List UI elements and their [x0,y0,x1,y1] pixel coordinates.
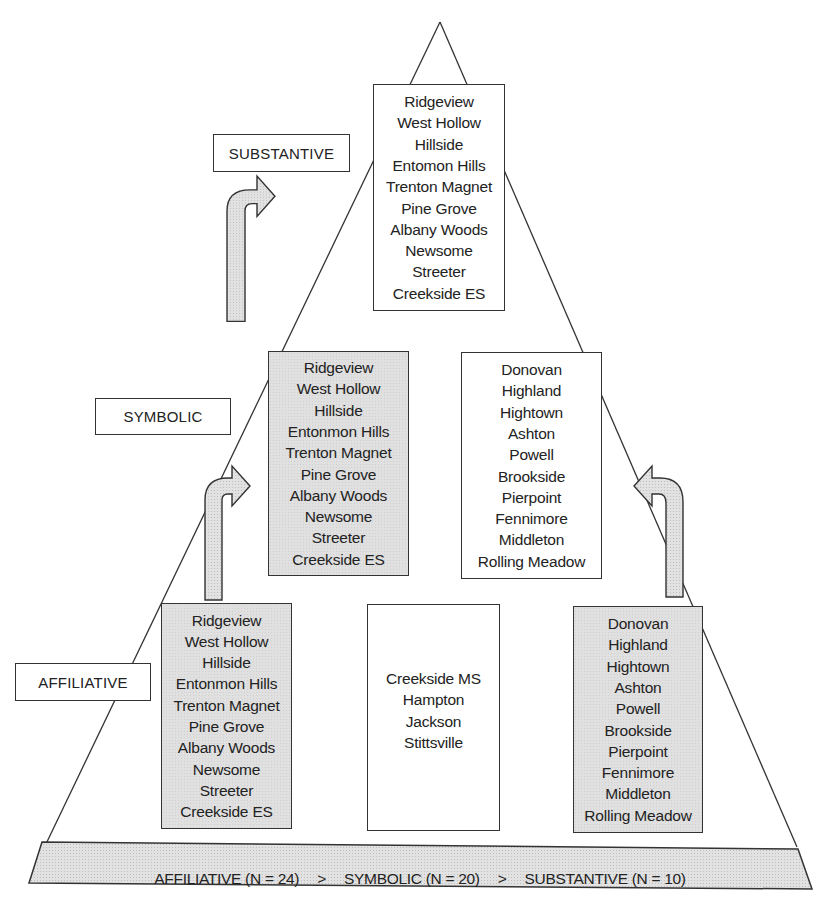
school-name: Hightown [500,402,563,423]
school-name: Hillside [415,134,463,155]
school-name: Donovan [608,613,669,634]
affiliative-left-schools-box: Ridgeview West Hollow Hillside Entonmon … [161,603,292,829]
school-name: Pine Grove [189,716,265,737]
school-name: Creekside ES [292,549,384,570]
school-name: Ashton [614,677,661,698]
school-name: Rolling Meadow [478,551,585,572]
school-name: Stittsville [404,732,463,753]
school-name: Middleton [499,529,564,550]
school-name: Brookside [498,466,565,487]
school-name: West Hollow [185,631,269,652]
school-name: Pine Grove [301,464,377,485]
school-name: West Hollow [297,378,381,399]
school-name: Jackson [406,711,461,732]
school-name: Fennimore [602,762,674,783]
school-name: Newsome [193,759,261,780]
school-name: Trenton Magnet [173,695,279,716]
school-name: Hillside [314,400,362,421]
symbolic-left-schools-box: Ridgeview West Hollow Hillside Entonmon … [268,351,409,576]
school-name: Trenton Magnet [285,442,391,463]
school-name: Hillside [202,652,250,673]
school-name: Entonmon Hills [288,421,389,442]
school-name: Entonmon Hills [176,673,277,694]
school-name: Newsome [305,506,373,527]
level-label-text: AFFILIATIVE [38,674,127,691]
school-name: Fennimore [495,508,567,529]
summary-ranking: AFFILIATIVE (N = 24) > SYMBOLIC (N = 20)… [60,870,780,888]
school-name: Streeter [412,261,466,282]
school-name: Streeter [312,527,366,548]
affiliative-right-schools-box: Donovan Highland Hightown Ashton Powell … [573,606,703,833]
level-label-text: SYMBOLIC [123,408,202,425]
arrow-up-right-icon [227,176,275,321]
school-name: Pine Grove [401,198,477,219]
school-name: Albany Woods [290,485,387,506]
school-name: Ridgeview [304,357,374,378]
school-name: Streeter [200,780,254,801]
arrow-up-right-icon [205,466,250,600]
summary-symbolic: SYMBOLIC (N = 20) [344,870,480,888]
symbolic-right-schools-box: Donovan Highland Hightown Ashton Powell … [461,352,602,579]
school-name: Highland [502,380,562,401]
school-name: Newsome [405,240,473,261]
school-name: Hightown [606,656,669,677]
level-label-affiliative: AFFILIATIVE [15,663,151,701]
summary-separator: > [498,870,507,888]
school-name: Ashton [508,423,555,444]
school-name: Albany Woods [178,737,275,758]
school-name: Creekside MS [386,668,481,689]
school-name: Pierpoint [608,741,667,762]
affiliative-center-schools-box: Creekside MS Hampton Jackson Stittsville [367,604,500,831]
summary-affiliative: AFFILIATIVE (N = 24) [154,870,299,888]
school-name: Middleton [605,783,670,804]
school-name: Ridgeview [404,91,474,112]
school-name: Rolling Meadow [584,805,691,826]
summary-separator: > [317,870,326,888]
summary-substantive: SUBSTANTIVE (N = 10) [524,870,685,888]
school-name: Hampton [403,689,465,710]
school-name: Ridgeview [192,610,262,631]
pyramid-diagram: SUBSTANTIVE SYMBOLIC AFFILIATIVE Ridgevi… [0,0,821,912]
school-name: West Hollow [397,112,481,133]
school-name: Creekside ES [180,801,272,822]
school-name: Pierpoint [502,487,561,508]
level-label-symbolic: SYMBOLIC [95,398,231,435]
school-name: Highland [608,634,668,655]
level-label-text: SUBSTANTIVE [229,145,334,162]
school-name: Donovan [501,359,562,380]
school-name: Trenton Magnet [386,176,492,197]
school-name: Powell [509,444,553,465]
substantive-schools-box: Ridgeview West Hollow Hillside Entomon H… [373,84,505,311]
school-name: Creekside ES [393,283,485,304]
school-name: Entomon Hills [392,155,485,176]
arrow-up-left-icon [634,466,683,597]
school-name: Albany Woods [390,219,487,240]
school-name: Powell [616,698,660,719]
school-name: Brookside [604,720,671,741]
level-label-substantive: SUBSTANTIVE [213,134,350,172]
